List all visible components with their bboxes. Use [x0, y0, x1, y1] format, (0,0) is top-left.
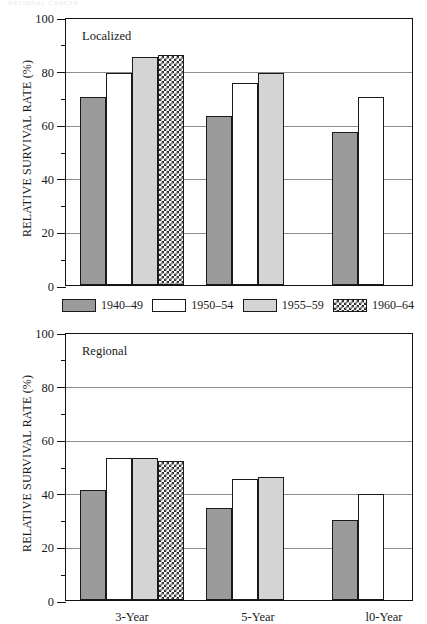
y-tick-minor	[61, 414, 66, 415]
bar-1955-59-5-Year	[258, 73, 284, 285]
y-tick-minor	[61, 260, 66, 261]
x-axis-label-2: l0-Year	[366, 610, 403, 624]
y-tick-major	[57, 72, 66, 73]
legend-swatch-icon	[62, 299, 96, 312]
y-tick-minor	[61, 521, 66, 522]
legend-label: 1940–49	[101, 298, 143, 313]
legend-item-1940-49[interactable]: 1940–49	[62, 298, 143, 313]
panel-title: Regional	[82, 344, 127, 359]
chart-panel-localized: 020406080100RELATIVE SURVIVAL RATE (%)Lo…	[65, 18, 413, 286]
faint-page-header: NATIONAL CANCER	[8, 0, 158, 8]
bar-1940-49-3-Year	[80, 97, 106, 285]
legend-swatch-icon	[333, 299, 367, 312]
y-tick-major	[57, 19, 66, 20]
y-tick-major	[57, 287, 66, 288]
y-tick-major	[57, 441, 66, 442]
y-axis-tick-label: 80	[42, 380, 55, 395]
bar-1955-59-3-Year	[132, 57, 158, 285]
bar-1940-49-3-Year	[80, 490, 106, 600]
bar-1955-59-5-Year	[258, 477, 284, 600]
y-tick-minor	[61, 468, 66, 469]
y-tick-major	[57, 602, 66, 603]
y-axis-tick-label: 40	[42, 487, 55, 502]
bar-1940-49-l0-Year	[332, 132, 358, 285]
y-tick-major	[57, 387, 66, 388]
bar-1950-54-l0-Year	[358, 97, 384, 285]
y-axis-tick-label: 0	[48, 595, 54, 610]
bar-1950-54-l0-Year	[358, 494, 384, 600]
bar-1940-49-l0-Year	[332, 520, 358, 600]
y-tick-major	[57, 233, 66, 234]
y-tick-major	[57, 494, 66, 495]
chart-panel-regional: 020406080100RELATIVE SURVIVAL RATE (%)Re…	[65, 333, 413, 601]
plot-area-regional: 020406080100RELATIVE SURVIVAL RATE (%)Re…	[65, 333, 413, 601]
y-tick-minor	[61, 575, 66, 576]
y-tick-minor	[61, 360, 66, 361]
y-axis-tick-label: 100	[35, 327, 54, 342]
legend-item-1950-54[interactable]: 1950–54	[152, 298, 233, 313]
bar-1950-54-3-Year	[106, 458, 132, 600]
y-axis-tick-label: 20	[42, 226, 55, 241]
legend-swatch-icon	[243, 299, 277, 312]
y-axis-title: RELATIVE SURVIVAL RATE (%)	[20, 60, 35, 237]
bar-1940-49-5-Year	[206, 508, 232, 600]
y-axis-tick-label: 60	[42, 119, 55, 134]
legend-label: 1960–64	[372, 298, 414, 313]
y-axis-tick-label: 60	[42, 434, 55, 449]
y-axis-tick-label: 0	[48, 280, 54, 295]
y-axis-tick-label: 20	[42, 541, 55, 556]
y-axis-title: RELATIVE SURVIVAL RATE (%)	[20, 375, 35, 552]
chart-legend: 1940–491950–541955–591960–64	[62, 297, 414, 313]
y-axis-tick-label: 80	[42, 65, 55, 80]
y-tick-major	[57, 126, 66, 127]
x-axis-label-0: 3-Year	[115, 610, 148, 624]
y-tick-minor	[61, 153, 66, 154]
panel-title: Localized	[82, 29, 131, 44]
y-axis-tick-label: 40	[42, 172, 55, 187]
bar-1950-54-5-Year	[232, 479, 258, 600]
legend-item-1960-64[interactable]: 1960–64	[333, 298, 414, 313]
y-tick-major	[57, 179, 66, 180]
bar-1950-54-3-Year	[106, 73, 132, 285]
plot-area-localized: 020406080100RELATIVE SURVIVAL RATE (%)Lo…	[65, 18, 413, 286]
legend-item-1955-59[interactable]: 1955–59	[243, 298, 324, 313]
gridline	[66, 387, 412, 388]
gridline	[66, 441, 412, 442]
bar-1955-59-3-Year	[132, 458, 158, 600]
bar-1960-64-3-Year	[158, 55, 184, 285]
y-tick-minor	[61, 45, 66, 46]
legend-label: 1950–54	[191, 298, 233, 313]
y-tick-minor	[61, 99, 66, 100]
x-axis-label-1: 5-Year	[241, 610, 274, 624]
y-tick-major	[57, 548, 66, 549]
legend-label: 1955–59	[282, 298, 324, 313]
y-tick-major	[57, 334, 66, 335]
bar-1950-54-5-Year	[232, 83, 258, 285]
y-tick-minor	[61, 206, 66, 207]
y-axis-tick-label: 100	[35, 12, 54, 27]
bar-1940-49-5-Year	[206, 116, 232, 285]
bar-1960-64-3-Year	[158, 461, 184, 600]
legend-swatch-icon	[152, 299, 186, 312]
